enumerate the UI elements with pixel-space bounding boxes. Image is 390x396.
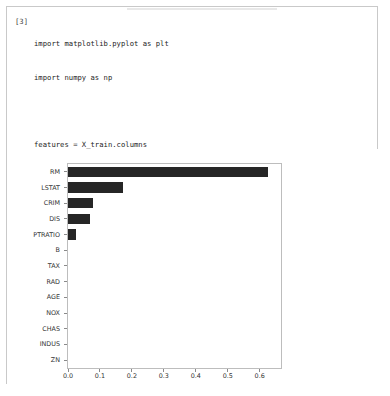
- y-tick-label-indus: INDUS: [40, 341, 60, 348]
- bar-row: [68, 180, 281, 196]
- execution-count-prompt: [3]: [15, 16, 28, 27]
- y-tick-row: RM: [7, 164, 67, 180]
- bar-rm: [68, 167, 268, 177]
- y-tick-mark: [64, 234, 67, 235]
- code-line: import numpy as np: [34, 72, 373, 83]
- y-tick-mark: [64, 187, 67, 188]
- bar-crim: [68, 198, 93, 208]
- y-tick-row: PTRATIO: [7, 227, 67, 243]
- y-tick-mark: [64, 171, 67, 172]
- y-tick-label-rad: RAD: [47, 278, 60, 285]
- x-tick-label: 0.4: [191, 373, 201, 380]
- bar-row: [68, 305, 281, 321]
- x-tick-label: 0.3: [159, 373, 169, 380]
- y-tick-label-dis: DIS: [49, 215, 60, 222]
- y-tick-mark: [64, 344, 67, 345]
- bar-row: [68, 195, 281, 211]
- x-tick-label: 0.5: [223, 373, 233, 380]
- x-tick-label: 0.0: [63, 373, 73, 380]
- y-tick-label-tax: TAX: [48, 262, 60, 269]
- code-input-area[interactable]: [3] import matplotlib.pyplot as plt impo…: [7, 7, 379, 149]
- bar-series: [68, 164, 281, 368]
- y-tick-mark: [64, 203, 67, 204]
- matplotlib-figure-output: RMLSTATCRIMDISPTRATIOBTAXRADAGENOXCHASIN…: [7, 149, 379, 385]
- x-axis-tick-labels: 0.00.10.20.30.40.50.6: [67, 369, 282, 385]
- y-tick-row: NOX: [7, 305, 67, 321]
- y-tick-label-zn: ZN: [51, 357, 60, 364]
- y-tick-mark: [64, 265, 67, 266]
- y-tick-label-b: B: [56, 247, 60, 254]
- y-tick-row: LSTAT: [7, 180, 67, 196]
- bar-row: [68, 321, 281, 337]
- code-line: import matplotlib.pyplot as plt: [34, 38, 373, 49]
- bar-row: [68, 274, 281, 290]
- x-tick-label: 0.2: [127, 373, 137, 380]
- y-tick-row: CHAS: [7, 321, 67, 337]
- bar-row: [68, 290, 281, 306]
- y-tick-label-lstat: LSTAT: [41, 184, 60, 191]
- bar-row: [68, 164, 281, 180]
- y-tick-row: AGE: [7, 290, 67, 306]
- bar-row: [68, 242, 281, 258]
- y-tick-mark: [64, 313, 67, 314]
- bar-lstat: [68, 182, 123, 192]
- bar-row: [68, 227, 281, 243]
- bar-ptratio: [68, 229, 76, 239]
- y-tick-row: CRIM: [7, 195, 67, 211]
- y-tick-mark: [64, 328, 67, 329]
- y-axis-tick-labels: RMLSTATCRIMDISPTRATIOBTAXRADAGENOXCHASIN…: [7, 164, 67, 368]
- y-tick-mark: [64, 360, 67, 361]
- y-tick-row: INDUS: [7, 337, 67, 353]
- y-tick-label-age: AGE: [47, 294, 60, 301]
- y-tick-row: ZN: [7, 352, 67, 368]
- notebook-cell[interactable]: [3] import matplotlib.pyplot as plt impo…: [6, 6, 378, 384]
- bar-row: [68, 352, 281, 368]
- y-tick-label-chas: CHAS: [42, 325, 60, 332]
- y-tick-label-nox: NOX: [46, 310, 60, 317]
- y-tick-mark: [64, 218, 67, 219]
- y-tick-label-rm: RM: [50, 168, 60, 175]
- y-tick-row: RAD: [7, 274, 67, 290]
- bar-row: [68, 258, 281, 274]
- y-tick-mark: [64, 250, 67, 251]
- y-tick-mark: [64, 281, 67, 282]
- y-tick-row: B: [7, 242, 67, 258]
- y-tick-row: DIS: [7, 211, 67, 227]
- y-tick-mark: [64, 297, 67, 298]
- y-tick-label-crim: CRIM: [44, 200, 60, 207]
- x-tick-label: 0.6: [255, 373, 265, 380]
- x-tick-label: 0.1: [95, 373, 105, 380]
- y-tick-row: TAX: [7, 258, 67, 274]
- bar-dis: [68, 214, 90, 224]
- bar-row: [68, 211, 281, 227]
- code-line-blank: [34, 106, 373, 117]
- y-tick-label-ptratio: PTRATIO: [33, 231, 60, 238]
- bar-row: [68, 337, 281, 353]
